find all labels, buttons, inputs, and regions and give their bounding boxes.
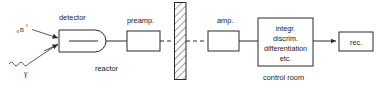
- processing-line-2: discrim.: [273, 34, 298, 43]
- amp-block: amp.: [208, 16, 239, 51]
- detector-label: detector: [59, 13, 86, 22]
- preamp-label: preamp.: [127, 16, 154, 25]
- processing-block: integr. discrim. differentiation etc.: [258, 18, 313, 66]
- neutron-input-group: 0 n 1: [17, 23, 59, 38]
- gamma-ray-wave: [9, 44, 58, 66]
- preamp-box: [127, 31, 160, 51]
- control-room-area-label: control room: [263, 73, 304, 82]
- gamma-ray-arrow: [44, 45, 58, 52]
- processing-line-1: integr.: [276, 24, 296, 33]
- shielding-wall: [175, 3, 187, 80]
- recorder-label: rec.: [350, 38, 362, 47]
- neutron-superscript-label: 1: [26, 23, 29, 28]
- recorder-block: rec.: [339, 32, 373, 51]
- amp-box: [208, 31, 239, 51]
- reactor-area-label: reactor: [95, 64, 119, 73]
- preamp-block: preamp.: [127, 16, 160, 51]
- gamma-input-group: γ: [9, 44, 58, 78]
- diagram-canvas: 0 n 1 γ detector preamp. r: [0, 0, 386, 95]
- amp-label: amp.: [217, 16, 233, 25]
- neutron-symbol-label: n: [20, 25, 24, 34]
- processing-line-3: differentiation: [264, 44, 307, 53]
- detector-block: detector: [59, 13, 106, 52]
- neutron-ray-arrow: [32, 30, 58, 39]
- block-diagram: 0 n 1 γ detector preamp. r: [0, 0, 386, 95]
- gamma-symbol-label: γ: [23, 69, 28, 78]
- processing-line-4: etc.: [280, 54, 292, 63]
